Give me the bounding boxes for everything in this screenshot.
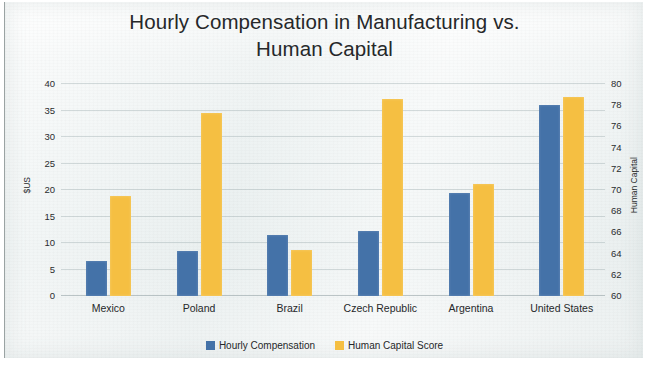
gridline: [61, 269, 605, 270]
y-axis-right-tick: 64: [611, 249, 633, 259]
x-axis-tick-label: Poland: [153, 302, 245, 315]
bar-human-capital-score[interactable]: [382, 99, 403, 296]
bar-human-capital-score[interactable]: [201, 113, 222, 296]
bar-group: [539, 84, 584, 296]
chart-legend: Hourly CompensationHuman Capital Score: [5, 340, 644, 351]
legend-item[interactable]: Hourly Compensation: [206, 340, 315, 351]
bar-hourly-compensation[interactable]: [358, 231, 379, 296]
y-axis-right-tick: 62: [611, 270, 633, 280]
legend-swatch-yellow: [335, 341, 344, 350]
bar-hourly-compensation[interactable]: [267, 235, 288, 296]
y-axis-left-tick: 35: [33, 106, 55, 116]
y-axis-right-label: Human Capital: [629, 157, 639, 213]
legend-item[interactable]: Human Capital Score: [335, 340, 443, 351]
chart-title: Hourly Compensation in Manufacturing vs.…: [5, 8, 644, 62]
x-axis-tick-label: Czech Republic: [334, 302, 426, 315]
bar-human-capital-score[interactable]: [473, 184, 494, 296]
bar-hourly-compensation[interactable]: [539, 105, 560, 296]
y-axis-left-tick: 40: [33, 79, 55, 89]
gridline: [61, 83, 605, 84]
bar-human-capital-score[interactable]: [110, 196, 131, 296]
x-axis-tick-label: Argentina: [425, 302, 517, 315]
bar-human-capital-score[interactable]: [563, 97, 584, 296]
gridline: [61, 136, 605, 137]
y-axis-right-tick: 66: [611, 227, 633, 237]
bar-hourly-compensation[interactable]: [86, 261, 107, 296]
y-axis-left-tick: 10: [33, 238, 55, 248]
scanned-page: Hourly Compensation in Manufacturing vs.…: [0, 0, 646, 369]
gridline: [61, 216, 605, 217]
bar-group: [177, 84, 222, 296]
bar-human-capital-score[interactable]: [291, 250, 312, 296]
y-axis-right-tick: 78: [611, 100, 633, 110]
bar-group: [86, 84, 131, 296]
bar-group: [267, 84, 312, 296]
legend-label: Hourly Compensation: [219, 340, 315, 351]
x-axis-tick-label: Mexico: [62, 302, 154, 315]
gridline: [61, 110, 605, 111]
y-axis-left-tick: 25: [33, 159, 55, 169]
gridline: [61, 163, 605, 164]
y-axis-left-ticks: 0510152025303540: [33, 84, 55, 296]
legend-swatch-blue: [206, 341, 215, 350]
y-axis-right-tick: 74: [611, 143, 633, 153]
chart-figure: Hourly Compensation in Manufacturing vs.…: [4, 2, 643, 358]
y-axis-left-tick: 30: [33, 132, 55, 142]
x-axis-tick-label: United States: [516, 302, 608, 315]
bar-hourly-compensation[interactable]: [177, 251, 198, 296]
legend-label: Human Capital Score: [348, 340, 443, 351]
y-axis-left-label: $US: [22, 177, 32, 194]
y-axis-right-tick: 80: [611, 79, 633, 89]
bar-group: [449, 84, 494, 296]
bar-hourly-compensation[interactable]: [449, 193, 470, 296]
plot-area: [61, 84, 605, 296]
gridline: [61, 242, 605, 243]
bar-group: [358, 84, 403, 296]
y-axis-right-tick: 60: [611, 291, 633, 301]
y-axis-left-tick: 20: [33, 185, 55, 195]
y-axis-right-tick: 76: [611, 121, 633, 131]
gridline: [61, 189, 605, 190]
x-axis-tick-label: Brazil: [244, 302, 336, 315]
y-axis-left-tick: 0: [33, 291, 55, 301]
y-axis-left-tick: 15: [33, 212, 55, 222]
y-axis-left-tick: 5: [33, 265, 55, 275]
gridline: [61, 295, 605, 296]
